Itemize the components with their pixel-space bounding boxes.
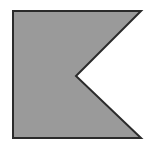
shape-canvas bbox=[0, 0, 149, 144]
shape-canvas-svg bbox=[0, 0, 149, 144]
